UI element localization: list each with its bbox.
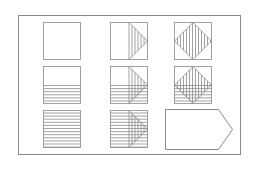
matrix-cell [175, 67, 212, 104]
cell-square [44, 23, 81, 60]
diamond-shape [175, 23, 212, 60]
matrix-cells [44, 23, 212, 148]
puzzle-diagram [0, 0, 256, 181]
answer-placeholder-shape[interactable] [166, 110, 233, 150]
matrix-cell [44, 67, 81, 104]
matrix-cell [111, 23, 148, 60]
matrix-cell [44, 111, 81, 148]
matrix-cell [111, 67, 148, 104]
cell-square [175, 23, 212, 60]
matrix-cell [44, 23, 81, 60]
matrix-cell [111, 111, 148, 148]
matrix-cell [175, 23, 212, 60]
